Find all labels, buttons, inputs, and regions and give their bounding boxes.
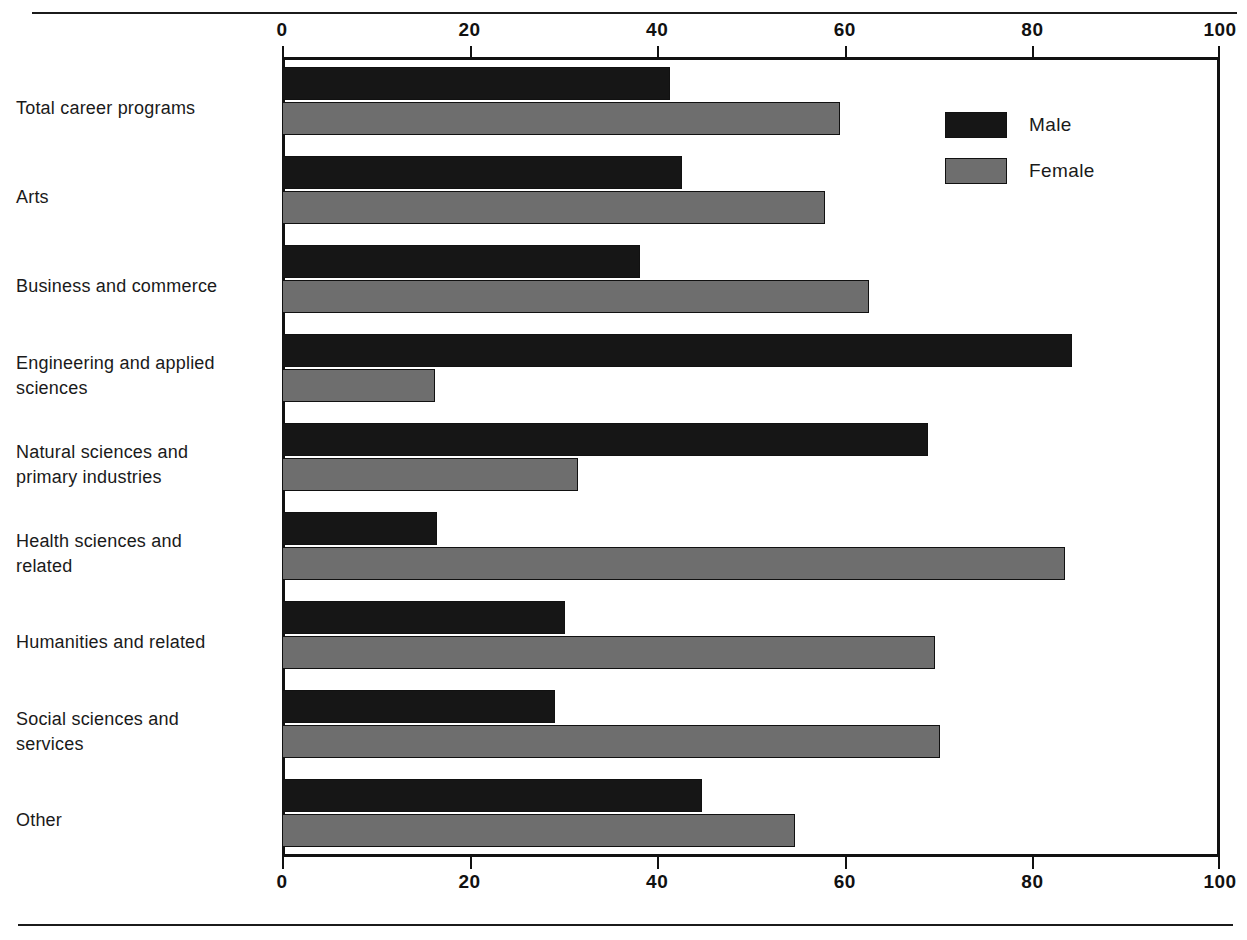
category-label: Natural sciences andprimary industries — [16, 440, 278, 490]
category-label: Arts — [16, 185, 278, 210]
bar-female-6 — [282, 636, 935, 669]
chart-legend: MaleFemale — [945, 112, 1175, 204]
legend-swatch-female — [945, 158, 1007, 184]
category-label-line: sciences — [16, 376, 278, 401]
axis-tick — [845, 857, 847, 869]
bar-male-3 — [282, 334, 1072, 367]
bar-female-1 — [282, 191, 825, 224]
legend-item-female[interactable]: Female — [945, 158, 1175, 184]
axis-tick — [1032, 46, 1034, 57]
category-label-line: Humanities and related — [16, 630, 278, 655]
axis-tick-label: 20 — [459, 19, 481, 41]
axis-tick-label: 80 — [1021, 19, 1043, 41]
bottom-axis: 020406080100 — [282, 857, 1220, 858]
bar-female-8 — [282, 814, 795, 847]
bar-male-6 — [282, 601, 565, 634]
axis-tick — [1032, 857, 1034, 869]
axis-tick-label: 0 — [276, 19, 287, 41]
category-label-line: related — [16, 554, 278, 579]
bar-male-0 — [282, 67, 670, 100]
category-label-line: Other — [16, 808, 278, 833]
category-label-line: primary industries — [16, 465, 278, 490]
category-label-line: Arts — [16, 185, 278, 210]
bar-male-8 — [282, 779, 702, 812]
bar-female-2 — [282, 280, 869, 313]
bar-male-1 — [282, 156, 682, 189]
category-label: Engineering and appliedsciences — [16, 351, 278, 401]
axis-tick — [282, 46, 284, 57]
bar-male-2 — [282, 245, 640, 278]
category-label-line: Total career programs — [16, 96, 278, 121]
category-label: Humanities and related — [16, 630, 278, 655]
category-label-line: Health sciences and — [16, 529, 278, 554]
axis-tick-label: 100 — [1203, 19, 1236, 41]
category-label-line: Engineering and applied — [16, 351, 278, 376]
category-label: Health sciences andrelated — [16, 529, 278, 579]
axis-tick-label: 40 — [646, 19, 668, 41]
category-label: Other — [16, 808, 278, 833]
axis-tick-label: 60 — [834, 871, 856, 893]
category-label: Social sciences andservices — [16, 707, 278, 757]
axis-tick — [657, 857, 659, 869]
axis-tick — [845, 46, 847, 57]
category-label-line: Social sciences and — [16, 707, 278, 732]
grouped-bar-chart: Total career programsArtsBusiness and co… — [0, 0, 1247, 940]
bar-female-3 — [282, 369, 435, 402]
axis-tick — [470, 46, 472, 57]
legend-label: Male — [1029, 114, 1072, 136]
bar-male-4 — [282, 423, 928, 456]
axis-tick — [1218, 857, 1220, 869]
axis-tick-label: 100 — [1203, 871, 1236, 893]
category-label: Business and commerce — [16, 274, 278, 299]
legend-item-male[interactable]: Male — [945, 112, 1175, 138]
axis-tick — [657, 46, 659, 57]
axis-tick-label: 0 — [276, 871, 287, 893]
axis-tick — [282, 857, 284, 869]
category-label: Total career programs — [16, 96, 278, 121]
bar-female-4 — [282, 458, 578, 491]
legend-swatch-male — [945, 112, 1007, 138]
legend-label: Female — [1029, 160, 1095, 182]
axis-tick — [470, 857, 472, 869]
category-label-line: services — [16, 732, 278, 757]
category-label-line: Natural sciences and — [16, 440, 278, 465]
axis-tick-label: 80 — [1021, 871, 1043, 893]
axis-tick-label: 20 — [459, 871, 481, 893]
bar-male-7 — [282, 690, 555, 723]
bar-female-5 — [282, 547, 1065, 580]
axis-tick — [1218, 46, 1220, 57]
top-axis: 020406080100 — [282, 57, 1220, 58]
bar-female-7 — [282, 725, 940, 758]
bar-female-0 — [282, 102, 840, 135]
axis-tick-label: 60 — [834, 19, 856, 41]
figure-bottom-rule — [18, 924, 1233, 926]
category-label-line: Business and commerce — [16, 274, 278, 299]
axis-tick-label: 40 — [646, 871, 668, 893]
bar-male-5 — [282, 512, 437, 545]
